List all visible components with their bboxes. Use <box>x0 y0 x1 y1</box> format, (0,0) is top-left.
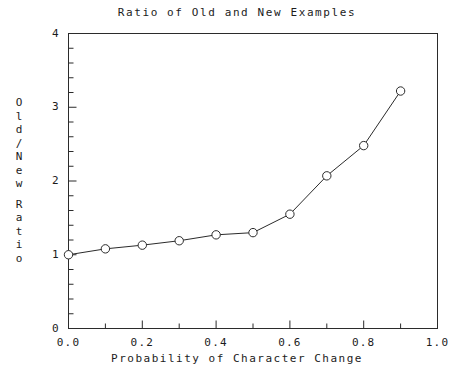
data-series-line <box>69 91 401 255</box>
data-point-marker <box>286 210 294 218</box>
plot-area <box>0 0 474 382</box>
y-tick-label: 3 <box>31 100 59 113</box>
chart-figure: Ratio of Old and New Examples O l d / N … <box>0 0 474 382</box>
data-point-marker <box>396 87 404 95</box>
data-point-marker <box>249 228 257 236</box>
data-point-marker <box>101 245 109 253</box>
x-tick-label: 1.0 <box>416 336 460 349</box>
data-point-marker <box>212 231 220 239</box>
data-point-markers <box>64 87 405 259</box>
x-tick-label: 0.2 <box>120 336 164 349</box>
x-tick-label: 0.4 <box>194 336 238 349</box>
data-point-marker <box>175 237 183 245</box>
y-tick-label: 2 <box>31 174 59 187</box>
axis-ticks <box>69 34 438 329</box>
x-tick-label: 0.8 <box>342 336 386 349</box>
data-point-marker <box>64 251 72 259</box>
plot-frame <box>69 34 438 329</box>
y-tick-label: 0 <box>31 322 59 335</box>
axes-frame <box>69 34 438 329</box>
x-tick-label: 0.0 <box>47 336 91 349</box>
y-tick-label: 4 <box>31 27 59 40</box>
y-tick-label: 1 <box>31 248 59 261</box>
data-point-marker <box>323 172 331 180</box>
series-polyline <box>69 91 401 255</box>
data-point-marker <box>360 141 368 149</box>
data-point-marker <box>138 241 146 249</box>
x-tick-label: 0.6 <box>268 336 312 349</box>
